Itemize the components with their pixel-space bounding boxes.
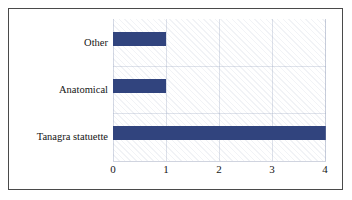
y-axis-category-labels: Other Anatomical Tanagra statuette: [9, 19, 112, 161]
plot-right-edge: [325, 19, 326, 161]
bar-other: [113, 32, 166, 46]
bar-anatomical: [113, 79, 166, 93]
x-axis-tick-label-2: 2: [204, 163, 234, 176]
y-axis-tick-label-other: Other: [8, 38, 108, 49]
x-axis-tick-label-3: 3: [257, 163, 287, 176]
gridline-y-category-2: [113, 113, 326, 114]
x-axis-line: [113, 161, 326, 162]
x-axis-tick-label-4: 4: [310, 163, 340, 176]
x-axis-tick-label-1: 1: [151, 163, 181, 176]
chart-figure: Other Anatomical Tanagra statuette 0 1 2…: [8, 8, 343, 190]
gridline-y-category-1: [113, 66, 326, 67]
plot-area: [113, 19, 326, 161]
x-axis-tick-labels: 0 1 2 3 4: [113, 163, 326, 183]
y-axis-tick-label-anatomical: Anatomical: [8, 85, 108, 96]
x-axis-tick-label-0: 0: [98, 163, 128, 176]
bar-tanagra-statuette: [113, 126, 326, 140]
y-axis-tick-label-tanagra-statuette: Tanagra statuette: [8, 132, 108, 143]
